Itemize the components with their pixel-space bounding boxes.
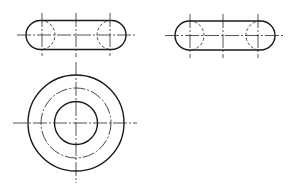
top-view-ring — [13, 62, 137, 183]
side-view-slot — [165, 14, 284, 58]
technical-drawing — [0, 0, 290, 192]
front-view-slot — [17, 13, 135, 57]
